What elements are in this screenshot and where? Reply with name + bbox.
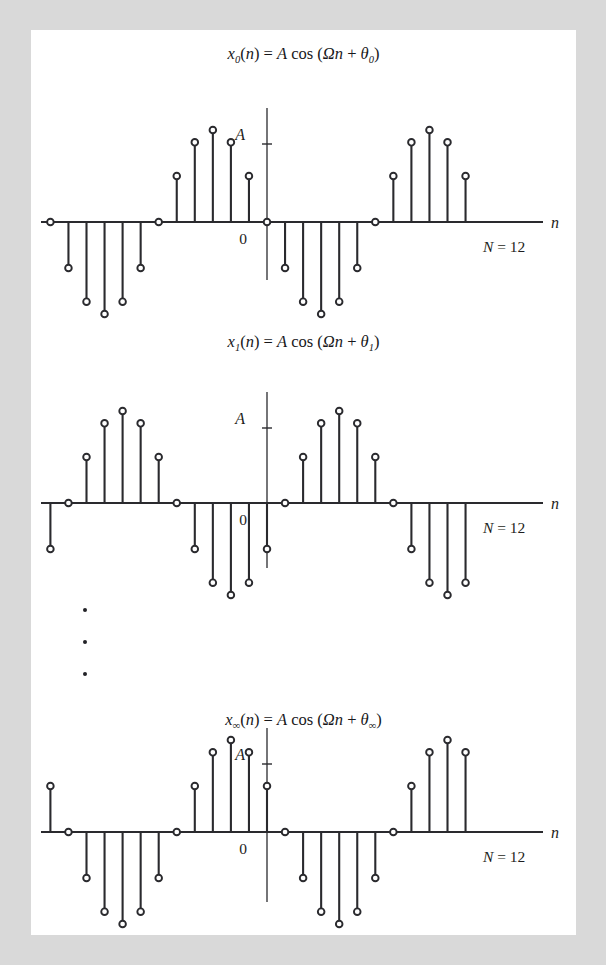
period-label: N = 12 <box>482 238 525 255</box>
stem-marker <box>155 219 162 226</box>
stem-marker <box>318 420 325 427</box>
stem-marker <box>155 454 162 461</box>
stem-marker <box>210 127 217 134</box>
stem-marker <box>300 298 307 305</box>
plot-svg-1: A0nN = 12 <box>31 320 576 610</box>
stem-marker <box>210 749 217 756</box>
stem-marker <box>101 311 108 318</box>
stem-marker <box>354 908 361 915</box>
stem-marker <box>300 875 307 882</box>
stem-marker <box>336 298 343 305</box>
origin-label: 0 <box>239 230 247 247</box>
stem-marker <box>228 139 235 146</box>
stem-marker <box>47 783 54 790</box>
stem-marker <box>282 265 289 272</box>
stem-marker <box>354 420 361 427</box>
stem-marker <box>65 829 72 836</box>
stem-marker <box>119 408 126 415</box>
stem-marker <box>173 829 180 836</box>
stem-marker <box>264 546 271 553</box>
stem-marker <box>444 139 451 146</box>
x-axis-label: n <box>551 214 559 231</box>
stem-marker <box>173 173 180 180</box>
stem-marker <box>390 173 397 180</box>
origin-label: 0 <box>239 511 247 528</box>
stem-marker <box>119 298 126 305</box>
stem-marker <box>462 749 469 756</box>
stem-marker <box>318 311 325 318</box>
stem-marker <box>408 139 415 146</box>
plot-panel-1: x1(n) = A cos (Ωn + θ1) A0nN = 12 <box>31 320 576 610</box>
amplitude-label: A <box>234 410 245 427</box>
stem-marker <box>83 454 90 461</box>
stem-marker <box>318 908 325 915</box>
stem-marker <box>264 219 271 226</box>
amplitude-label: A <box>234 126 245 143</box>
stem-marker <box>372 454 379 461</box>
stem-marker <box>83 875 90 882</box>
x-axis-label: n <box>551 824 559 841</box>
plot-svg-0: A0nN = 12 <box>31 30 576 320</box>
stem-marker <box>246 579 253 586</box>
origin-label: 0 <box>239 840 247 857</box>
stem-marker <box>444 737 451 744</box>
stem-marker <box>390 829 397 836</box>
stem-marker <box>137 420 144 427</box>
stem-marker <box>426 579 433 586</box>
stem-marker <box>462 173 469 180</box>
figure-page: x0(n) = A cos (Ωn + θ0) A0nN = 12 x1(n) … <box>31 30 576 935</box>
stem-marker <box>354 265 361 272</box>
stem-marker <box>408 546 415 553</box>
period-label: N = 12 <box>482 848 525 865</box>
stem-marker <box>264 783 271 790</box>
stem-marker <box>65 265 72 272</box>
stem-marker <box>101 908 108 915</box>
stem-marker <box>426 127 433 134</box>
stem-marker <box>282 500 289 507</box>
stem-marker <box>336 921 343 928</box>
stem-marker <box>228 737 235 744</box>
plot-svg-inf: A0nN = 12 <box>31 670 576 935</box>
stem-marker <box>137 265 144 272</box>
stem-marker <box>47 219 54 226</box>
stem-marker <box>462 579 469 586</box>
x-axis-label: n <box>551 495 559 512</box>
stem-marker <box>246 749 253 756</box>
stem-marker <box>444 592 451 599</box>
stem-marker <box>372 219 379 226</box>
stem-marker <box>83 298 90 305</box>
plot-panel-inf: x∞(n) = A cos (Ωn + θ∞) A0nN = 12 <box>31 670 576 935</box>
stem-marker <box>390 500 397 507</box>
stem-marker <box>101 420 108 427</box>
stem-marker <box>246 173 253 180</box>
period-label: N = 12 <box>482 519 525 536</box>
stem-marker <box>408 783 415 790</box>
stem-marker <box>426 749 433 756</box>
stem-marker <box>192 783 199 790</box>
stem-marker <box>137 908 144 915</box>
stem-marker <box>47 546 54 553</box>
stem-marker <box>210 579 217 586</box>
stem-marker <box>192 546 199 553</box>
stem-marker <box>372 875 379 882</box>
stem-marker <box>300 454 307 461</box>
stem-marker <box>192 139 199 146</box>
ellipsis-dot <box>83 640 87 644</box>
stem-marker <box>119 921 126 928</box>
stem-marker <box>155 875 162 882</box>
amplitude-label: A <box>234 746 245 763</box>
stem-marker <box>173 500 180 507</box>
stem-marker <box>65 500 72 507</box>
plot-panel-0: x0(n) = A cos (Ωn + θ0) A0nN = 12 <box>31 30 576 320</box>
stem-marker <box>336 408 343 415</box>
stem-marker <box>228 592 235 599</box>
ellipsis-dot <box>83 608 87 612</box>
stem-marker <box>282 829 289 836</box>
